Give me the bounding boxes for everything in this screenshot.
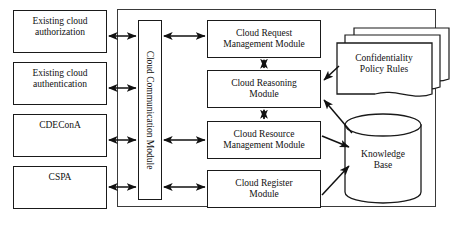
confidentiality-policy-rules-shape[interactable]: Confidentiality Policy Rules — [336, 27, 450, 101]
knowledge-base-shape[interactable]: Knowledge Base — [344, 113, 422, 204]
confidentiality-policy-rules-label: Confidentiality Policy Rules — [336, 53, 432, 76]
cloud-communication-module-box[interactable]: Cloud Communication Module — [138, 20, 162, 200]
diagram-canvas: Existing cloud authorization Existing cl… — [0, 0, 471, 225]
module-label: Cloud Request Management Module — [223, 28, 305, 50]
cloud-request-management-module-box[interactable]: Cloud Request Management Module — [207, 20, 321, 58]
cloud-resource-management-module-box[interactable]: Cloud Resource Management Module — [207, 121, 321, 159]
cloud-register-module-box[interactable]: Cloud Register Module — [207, 170, 321, 208]
module-label: Cloud Reasoning Module — [231, 78, 297, 100]
module-label: Cloud Register Module — [235, 178, 292, 200]
actor-box-existing-cloud-authentication[interactable]: Existing cloud authentication — [13, 62, 107, 105]
actor-label: CDEConA — [14, 120, 106, 131]
cloud-communication-module-label: Cloud Communication Module — [145, 51, 155, 170]
actor-label: Existing cloud authentication — [14, 68, 106, 90]
actor-label: CSPA — [14, 172, 106, 183]
actor-box-cdecona[interactable]: CDEConA — [13, 114, 107, 157]
actor-box-existing-cloud-authorization[interactable]: Existing cloud authorization — [13, 10, 107, 53]
knowledge-base-label: Knowledge Base — [344, 149, 422, 172]
module-label: Cloud Resource Management Module — [223, 129, 305, 151]
cloud-reasoning-module-box[interactable]: Cloud Reasoning Module — [207, 70, 321, 108]
actor-box-cspa[interactable]: CSPA — [13, 166, 107, 209]
actor-label: Existing cloud authorization — [14, 16, 106, 38]
